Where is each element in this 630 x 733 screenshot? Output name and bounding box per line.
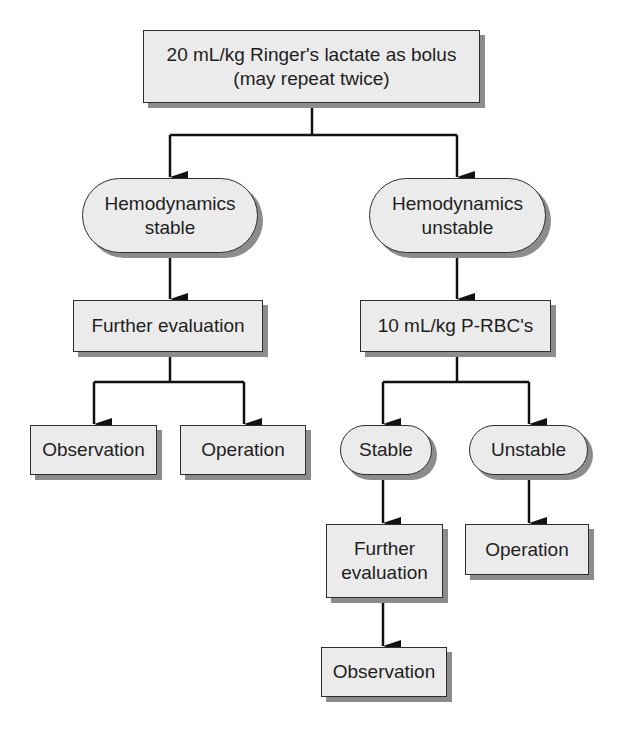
node-label: Hemodynamics stable [105,192,236,240]
node-prbc: 10 mL/kg P-RBC's [360,300,551,352]
node-label: Observation [42,438,144,462]
node-further-evaluation-right: Further evaluation [326,524,443,598]
flowchart: 20 mL/kg Ringer's lactate as bolus (may … [0,0,630,733]
node-label: Operation [485,538,568,562]
node-label: Hemodynamics unstable [392,192,523,240]
node-label: Further evaluation [341,537,428,585]
node-operation-right: Operation [465,524,589,575]
node-label: 10 mL/kg P-RBC's [378,314,534,338]
node-label: Observation [333,660,435,684]
node-label: Further evaluation [91,314,244,338]
node-stable: Stable [340,425,432,475]
node-unstable: Unstable [469,425,588,475]
connector-layer [0,0,630,733]
node-label: 20 mL/kg Ringer's lactate as bolus (may … [167,43,457,91]
node-label: Operation [201,438,284,462]
node-hemodynamics-unstable: Hemodynamics unstable [369,178,546,253]
node-label: Unstable [491,438,566,462]
node-further-evaluation-left: Further evaluation [73,300,263,352]
node-label: Stable [359,438,413,462]
node-ringers-lactate-bolus: 20 mL/kg Ringer's lactate as bolus (may … [143,30,480,103]
node-observation-right: Observation [321,647,447,697]
node-operation-left: Operation [180,425,306,475]
node-observation-left: Observation [30,425,157,475]
node-hemodynamics-stable: Hemodynamics stable [82,178,258,253]
